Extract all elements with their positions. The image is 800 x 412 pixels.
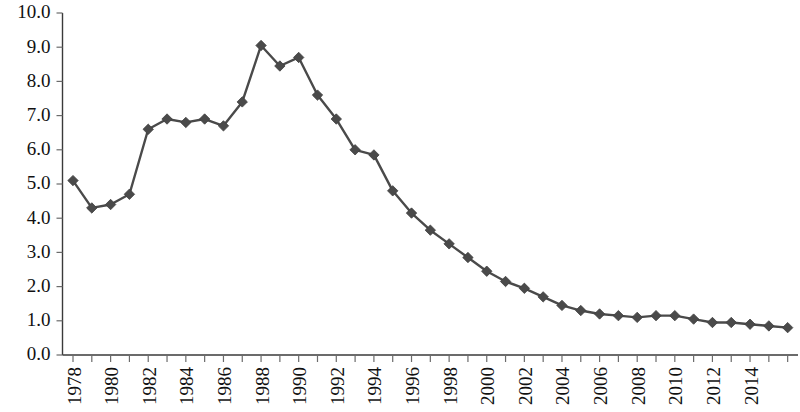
x-tick-label-group: 1994 [364, 367, 385, 406]
y-tick-label: 10.0 [17, 1, 50, 22]
x-tick-label: 1980 [101, 367, 122, 405]
x-tick-label-group: 1978 [64, 367, 85, 405]
data-point-marker [124, 189, 134, 199]
x-tick-label: 1990 [289, 367, 310, 405]
x-tick-label-group: 1988 [252, 367, 273, 405]
y-tick-label: 1.0 [27, 309, 51, 330]
x-tick-label: 2000 [477, 367, 498, 405]
data-point-marker [707, 317, 717, 327]
x-tick-label-group: 1986 [214, 367, 235, 405]
x-tick-label-group: 1984 [176, 367, 197, 406]
y-tick-label: 0.0 [27, 343, 51, 364]
x-tick-label: 1992 [327, 367, 348, 405]
data-point-marker [538, 292, 548, 302]
data-point-marker [764, 321, 774, 331]
line-chart: 0.01.02.03.04.05.06.07.08.09.010.0197819… [0, 0, 800, 412]
y-tick-label: 8.0 [27, 70, 51, 91]
data-point-marker [143, 124, 153, 134]
data-point-marker [369, 150, 379, 160]
data-point-marker [726, 317, 736, 327]
x-tick-label: 2004 [552, 367, 573, 406]
data-point-marker [500, 276, 510, 286]
data-point-marker [199, 114, 209, 124]
x-tick-label-group: 2000 [477, 367, 498, 405]
data-point-marker [557, 300, 567, 310]
x-tick-label: 2008 [628, 367, 649, 405]
x-tick-label-group: 1992 [327, 367, 348, 405]
data-point-marker [594, 309, 604, 319]
x-tick-label-group: 2002 [515, 367, 536, 405]
x-tick-label-group: 2006 [590, 367, 611, 405]
data-point-marker [613, 310, 623, 320]
x-tick-label: 1988 [252, 367, 273, 405]
x-tick-label-group: 1996 [402, 367, 423, 405]
x-tick-label-group: 1982 [139, 367, 160, 405]
y-tick-label: 9.0 [27, 36, 51, 57]
x-tick-label: 2012 [703, 367, 724, 405]
x-tick-label-group: 2008 [628, 367, 649, 405]
x-tick-label: 2010 [665, 367, 686, 405]
data-point-marker [688, 314, 698, 324]
x-tick-label: 2002 [515, 367, 536, 405]
x-tick-label-group: 2012 [703, 367, 724, 405]
y-tick-label: 5.0 [27, 172, 51, 193]
y-tick-label: 4.0 [27, 207, 51, 228]
x-tick-label: 1996 [402, 367, 423, 405]
data-point-marker [519, 283, 529, 293]
x-tick-label-group: 2010 [665, 367, 686, 405]
x-tick-label: 1986 [214, 367, 235, 405]
x-tick-label: 1982 [139, 367, 160, 405]
data-point-marker [105, 199, 115, 209]
data-point-marker [576, 305, 586, 315]
data-point-marker [651, 310, 661, 320]
data-point-marker [745, 319, 755, 329]
x-tick-label-group: 1990 [289, 367, 310, 405]
y-tick-label: 7.0 [27, 104, 51, 125]
x-tick-label: 2014 [741, 367, 762, 406]
y-tick-label: 2.0 [27, 275, 51, 296]
x-tick-label: 1994 [364, 367, 385, 406]
x-tick-label: 1978 [64, 367, 85, 405]
x-tick-label: 2006 [590, 367, 611, 405]
x-tick-label-group: 2004 [552, 367, 573, 406]
x-tick-label: 1998 [440, 367, 461, 405]
x-tick-label-group: 2014 [741, 367, 762, 406]
chart-container: 0.01.02.03.04.05.06.07.08.09.010.0197819… [0, 0, 800, 412]
data-point-marker [632, 312, 642, 322]
data-point-marker [670, 310, 680, 320]
data-point-marker [782, 322, 792, 332]
data-point-marker [162, 114, 172, 124]
x-tick-label-group: 1980 [101, 367, 122, 405]
data-point-marker [181, 117, 191, 127]
y-tick-label: 3.0 [27, 241, 51, 262]
y-tick-label: 6.0 [27, 138, 51, 159]
x-tick-label: 1984 [176, 367, 197, 406]
data-point-marker [350, 145, 360, 155]
x-tick-label-group: 1998 [440, 367, 461, 405]
data-series-line [73, 45, 788, 327]
data-point-marker [293, 52, 303, 62]
